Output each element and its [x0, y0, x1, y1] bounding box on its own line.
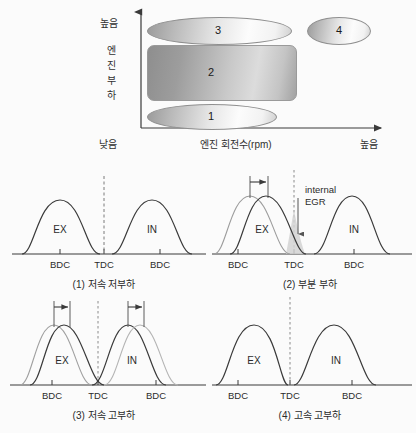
panel-1-intake-label: IN	[147, 224, 157, 235]
panel-3-exhaust-label: EX	[55, 355, 68, 366]
panel-2-caption: (2) 부분 부하	[206, 276, 414, 291]
panel-1-tick-tdc: TDC	[94, 259, 114, 270]
valve-lift-panel-2: internal EGR EX IN BDC TDC BDC (2) 부분 부하	[206, 162, 414, 299]
panel-1-tick-bdc-left: BDC	[50, 259, 70, 270]
panel-1-exhaust-label: EX	[53, 224, 66, 235]
valve-lift-panel-3: EX IN BDC TDC BDC (3) 저속 고부하	[0, 297, 208, 433]
panel-2-egr-line1: internal	[305, 184, 336, 195]
panel-2-tick-bdc-right: BDC	[344, 259, 364, 270]
figure-root: 높음 엔진부하 3 4 2 1 낮음 엔진 회전수(rpm) 높음	[0, 0, 416, 433]
valve-lift-panel-1: EX IN BDC TDC BDC (1) 저속 저부하	[0, 162, 208, 299]
map-x-axis-high-label: 높음	[360, 136, 378, 151]
panel-2-egr-line2: EGR	[305, 196, 326, 207]
panel-4-tick-bdc-left: BDC	[228, 390, 248, 401]
map-zone-1-label: 1	[208, 110, 214, 122]
panel-4-caption: (4) 고속 고부하	[206, 407, 414, 422]
panel-1-tick-bdc-right: BDC	[150, 259, 170, 270]
map-zone-4-label: 4	[336, 24, 342, 36]
map-zone-3-label: 3	[215, 24, 221, 36]
panel-2-tick-bdc-left: BDC	[228, 259, 248, 270]
panel-3-tick-bdc-right: BDC	[146, 390, 166, 401]
panel-3-intake-label: IN	[127, 355, 137, 366]
map-y-axis-high-label: 높음	[100, 15, 118, 30]
map-zone-2-region[interactable]	[147, 45, 297, 101]
panel-2-plot	[206, 162, 414, 272]
engine-operating-map: 높음 엔진부하 3 4 2 1 낮음 엔진 회전수(rpm) 높음	[0, 0, 416, 158]
panel-4-exhaust-label: EX	[247, 355, 260, 366]
map-x-axis-low-label: 낮음	[99, 136, 117, 151]
panel-2-intake-label: IN	[349, 224, 359, 235]
panel-1-plot	[0, 162, 208, 272]
map-zone-2-label: 2	[208, 66, 214, 78]
panel-2-internal-egr-annotation: internal EGR	[305, 184, 336, 207]
panel-4-tick-tdc: TDC	[280, 390, 300, 401]
valve-lift-panel-4: EX IN BDC TDC BDC (4) 고속 고부하	[206, 297, 414, 433]
panel-3-tick-bdc-left: BDC	[42, 390, 62, 401]
map-y-axis-title: 엔진부하	[103, 43, 119, 103]
panel-1-caption: (1) 저속 저부하	[0, 276, 208, 291]
panel-3-caption: (3) 저속 고부하	[0, 407, 208, 422]
map-x-axis-title: 엔진 회전수(rpm)	[200, 136, 272, 151]
panel-4-tick-bdc-right: BDC	[342, 390, 362, 401]
panel-4-intake-label: IN	[331, 355, 341, 366]
panel-2-exhaust-label: EX	[255, 224, 268, 235]
panel-3-tick-tdc: TDC	[88, 390, 108, 401]
panel-2-tick-tdc: TDC	[284, 259, 304, 270]
